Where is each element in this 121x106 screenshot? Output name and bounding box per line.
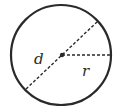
circle-figure: d r	[0, 0, 121, 106]
circle-diagram: d r	[0, 0, 121, 106]
center-point	[60, 53, 64, 57]
diameter-label: d	[34, 50, 44, 68]
radius-label: r	[82, 62, 90, 80]
